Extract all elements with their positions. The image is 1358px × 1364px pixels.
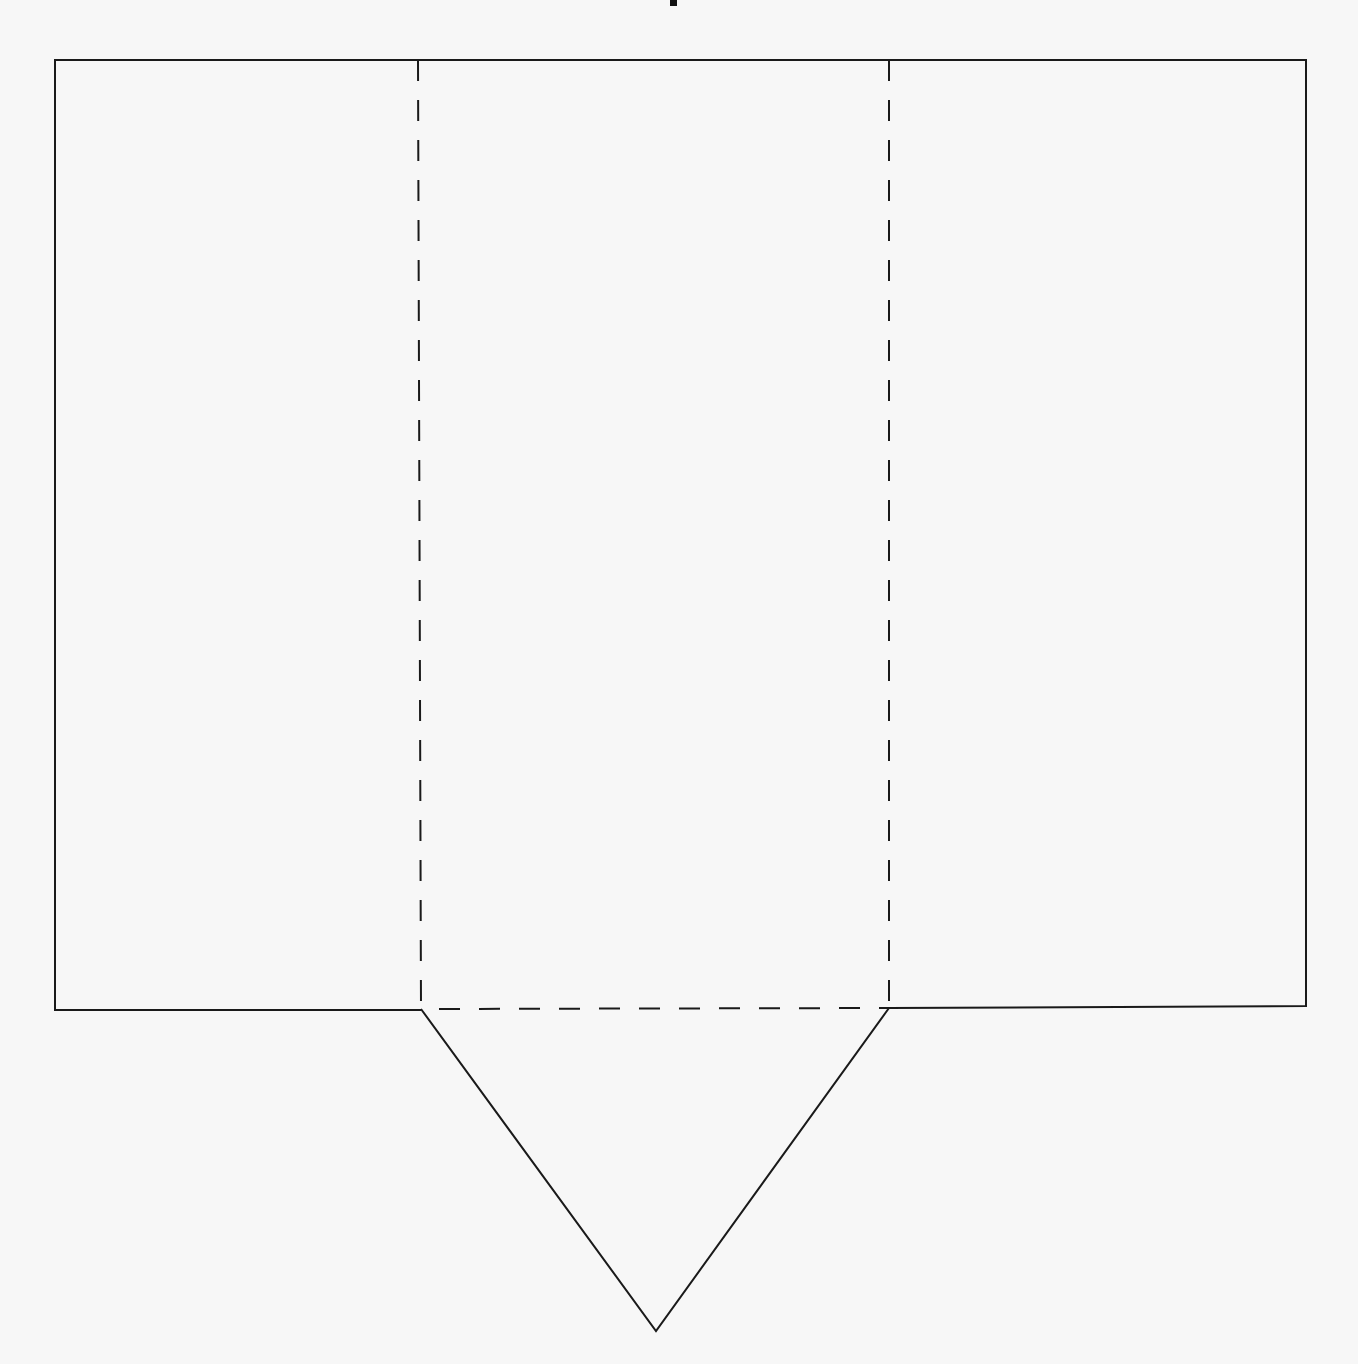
top-edge-mark [670, 0, 677, 6]
bottom-fold-line [421, 1008, 889, 1009]
diagram-canvas [0, 0, 1358, 1364]
folding-template-diagram [0, 0, 1358, 1364]
paper-background [0, 0, 1358, 1364]
